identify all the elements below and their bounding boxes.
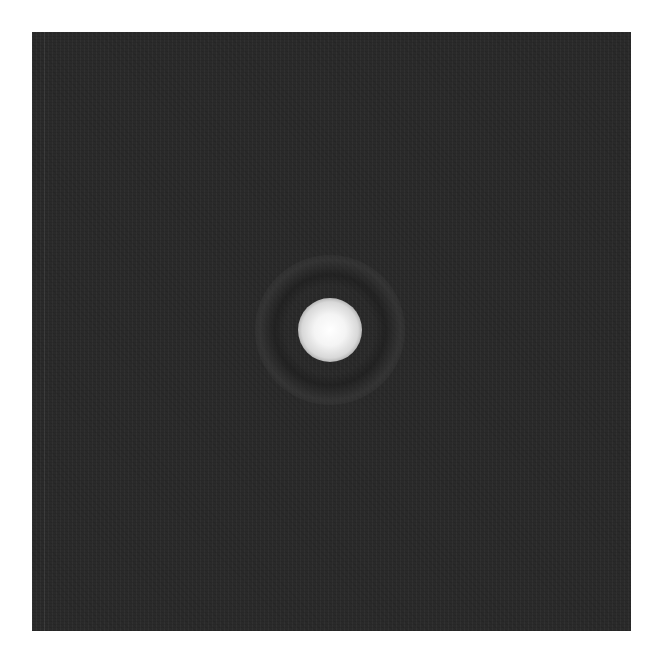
image-frame	[32, 32, 631, 631]
sensor-edge-line	[44, 32, 45, 631]
airy-disk-spot	[298, 298, 362, 362]
